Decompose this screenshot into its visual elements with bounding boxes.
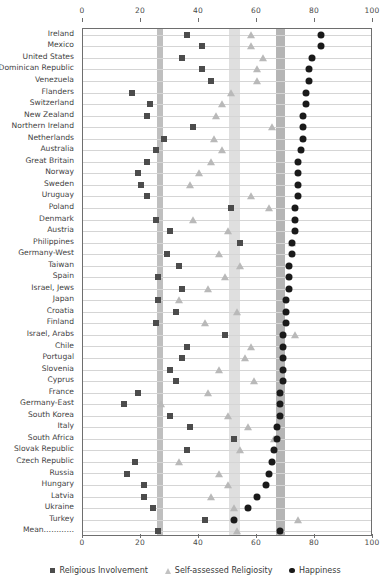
- data-point-triangle: [212, 112, 220, 119]
- row-gridline: [83, 46, 371, 47]
- data-point-square: [153, 320, 159, 326]
- data-point-circle: [265, 470, 272, 477]
- country-label: Mexico: [47, 41, 74, 49]
- country-label: Slovak Republic: [14, 445, 74, 453]
- data-point-square: [184, 447, 190, 453]
- data-point-square: [155, 528, 161, 534]
- row-gridline: [83, 393, 371, 394]
- country-label: Netherlands: [28, 134, 74, 142]
- data-point-circle: [277, 389, 284, 396]
- data-point-square: [199, 43, 205, 49]
- x-axis-tick-label: 100: [365, 6, 380, 15]
- data-point-circle: [262, 482, 269, 489]
- country-label: South Korea: [28, 411, 74, 419]
- data-point-circle: [280, 331, 287, 338]
- data-point-square: [190, 124, 196, 130]
- data-point-circle: [297, 147, 304, 154]
- data-point-triangle: [215, 250, 223, 257]
- data-point-circle: [300, 124, 307, 131]
- data-point-circle: [300, 112, 307, 119]
- data-point-triangle: [224, 412, 232, 419]
- data-point-circle: [294, 181, 301, 188]
- data-point-circle: [283, 297, 290, 304]
- country-label: Germany-East: [20, 399, 74, 407]
- country-label: Israel, Jews: [31, 284, 74, 292]
- data-point-triangle: [210, 135, 218, 142]
- plot-area: [82, 28, 372, 536]
- data-point-triangle: [253, 66, 261, 73]
- data-point-square: [124, 471, 130, 477]
- row-gridline: [83, 254, 371, 255]
- x-axis-tick-label: 20: [135, 538, 145, 547]
- data-point-triangle: [291, 331, 299, 338]
- row-gridline: [83, 300, 371, 301]
- country-label: Sweden: [44, 180, 74, 188]
- row-gridline: [83, 531, 371, 532]
- data-point-circle: [268, 458, 275, 465]
- data-point-square: [132, 459, 138, 465]
- row-gridline: [83, 162, 371, 163]
- x-axis-bottom: 020406080100: [82, 538, 372, 554]
- data-point-square: [187, 424, 193, 430]
- row-gridline: [83, 370, 371, 371]
- data-point-triangle: [294, 516, 302, 523]
- data-point-triangle: [218, 146, 226, 153]
- data-point-square: [144, 193, 150, 199]
- row-gridline: [83, 104, 371, 105]
- data-point-square: [138, 182, 144, 188]
- country-label: Australia: [40, 145, 74, 153]
- data-point-triangle: [204, 285, 212, 292]
- data-point-circle: [280, 343, 287, 350]
- legend-item: Religious Involvement: [50, 566, 147, 575]
- data-point-circle: [288, 239, 295, 246]
- data-point-circle: [277, 401, 284, 408]
- x-axis-tick-label: 20: [135, 6, 145, 15]
- data-point-square: [179, 286, 185, 292]
- data-point-triangle: [236, 447, 244, 454]
- data-point-triangle: [259, 54, 267, 61]
- data-point-square: [179, 55, 185, 61]
- country-label: South Africa: [28, 434, 74, 442]
- country-label: Ireland: [48, 30, 74, 38]
- row-gridline: [83, 346, 371, 347]
- x-axis-tick-mark: [314, 18, 315, 22]
- data-point-triangle: [195, 169, 203, 176]
- data-point-circle: [300, 135, 307, 142]
- country-label: Mean…………: [23, 526, 74, 534]
- country-label: Great Britain: [25, 157, 74, 165]
- data-point-square: [202, 517, 208, 523]
- country-label: Croatia: [47, 307, 74, 315]
- country-label: Czech Republic: [16, 457, 74, 465]
- row-gridline: [83, 127, 371, 128]
- data-point-square: [147, 101, 153, 107]
- data-point-circle: [303, 101, 310, 108]
- country-label: Hungary: [42, 480, 74, 488]
- data-point-triangle: [265, 204, 273, 211]
- country-label: Denmark: [39, 215, 74, 223]
- x-axis-tick-mark: [140, 18, 141, 22]
- row-gridline: [83, 312, 371, 313]
- country-label: Venezuela: [35, 76, 74, 84]
- row-gridline: [83, 185, 371, 186]
- data-point-triangle: [201, 320, 209, 327]
- data-point-circle: [280, 378, 287, 385]
- data-point-square: [141, 494, 147, 500]
- data-point-triangle: [247, 42, 255, 49]
- data-point-circle: [280, 355, 287, 362]
- x-axis-tick-label: 0: [80, 538, 85, 547]
- data-point-triangle: [207, 158, 215, 165]
- data-point-square: [164, 251, 170, 257]
- row-gridline: [83, 243, 371, 244]
- x-axis-tick-mark: [198, 18, 199, 22]
- data-point-square: [237, 240, 243, 246]
- x-axis-tick-label: 60: [251, 6, 261, 15]
- data-point-square: [144, 159, 150, 165]
- data-point-square: [135, 390, 141, 396]
- data-point-circle: [280, 366, 287, 373]
- country-label: Taiwan: [48, 261, 74, 269]
- x-axis-tick-label: 60: [251, 538, 261, 547]
- row-gridline: [83, 81, 371, 82]
- country-label: Flanders: [41, 88, 74, 96]
- country-label: Israel, Arabs: [27, 330, 74, 338]
- data-point-triangle: [250, 377, 258, 384]
